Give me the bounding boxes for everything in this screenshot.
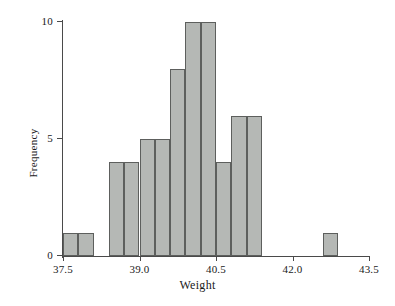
histogram-bar	[247, 116, 262, 256]
histogram-bar	[201, 22, 216, 256]
x-axis-tick-label: 40.5	[206, 264, 226, 275]
y-axis-tick-label: 10	[42, 16, 53, 27]
x-axis-tick: 43.5	[369, 256, 370, 261]
histogram-bar	[231, 116, 246, 256]
y-axis-tick-label: 5	[47, 133, 53, 144]
y-axis-tick-label: 0	[47, 250, 53, 261]
x-axis-tick-label: 43.5	[359, 264, 379, 275]
histogram-bar	[140, 139, 155, 256]
histogram-bar	[124, 162, 139, 256]
histogram-bar	[170, 69, 185, 256]
histogram-bar	[185, 22, 200, 256]
x-axis-tick-label: 37.5	[53, 264, 73, 275]
x-axis-tick-label: 39.0	[129, 264, 149, 275]
x-axis-tick: 37.5	[63, 256, 64, 261]
histogram-bar	[323, 233, 338, 256]
histogram-bar	[78, 233, 93, 256]
x-axis-tick-label: 42.0	[282, 264, 302, 275]
histogram-bar	[63, 233, 78, 256]
histogram-bar	[155, 139, 170, 256]
histogram-bar	[216, 162, 231, 256]
plot-area: 051037.539.040.542.043.5	[63, 22, 369, 256]
histogram-bar	[109, 162, 124, 256]
x-axis-tick: 40.5	[216, 256, 217, 261]
x-axis-tick: 42.0	[293, 256, 294, 261]
x-axis-label: Weight	[0, 278, 395, 293]
x-axis-tick: 39.0	[140, 256, 141, 261]
y-axis-tick: 10	[57, 21, 63, 22]
y-axis-label: Frequency	[27, 128, 39, 177]
y-axis-tick: 5	[57, 138, 63, 139]
histogram-figure: Frequency 051037.539.040.542.043.5 Weigh…	[0, 0, 395, 306]
